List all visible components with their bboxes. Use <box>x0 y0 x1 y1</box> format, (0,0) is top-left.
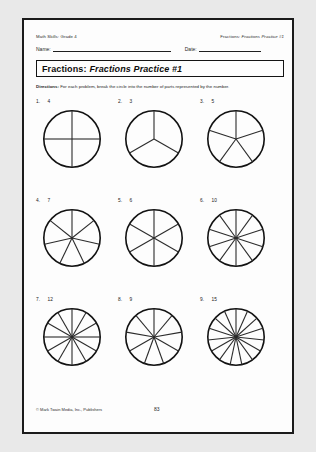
problem-parts-value: 10 <box>211 198 217 203</box>
header-lesson-title: Fractions: Fractions Practice #1 <box>220 34 284 39</box>
problem-number: 9. <box>200 297 204 302</box>
header-book-title: Math Skills: Grade 4 <box>36 34 77 39</box>
date-label: Date: <box>185 46 197 52</box>
header-lesson-prefix: Fractions: <box>220 34 240 39</box>
problem-9: 9.15 <box>200 297 282 396</box>
problem-4: 4.7 <box>36 198 118 297</box>
problem-parts-value: 9 <box>129 297 132 302</box>
problem-parts-value: 15 <box>211 297 217 302</box>
problem-row: 7.128.99.15 <box>36 297 284 396</box>
problem-parts-value: 12 <box>47 297 53 302</box>
problem-label: 6.10 <box>200 198 282 207</box>
problem-parts-value: 4 <box>47 99 50 104</box>
problem-label: 1.4 <box>36 99 118 108</box>
problem-8: 8.9 <box>118 297 200 396</box>
fraction-circle[interactable] <box>41 108 103 170</box>
fraction-circle[interactable] <box>205 306 267 368</box>
worksheet-page: Math Skills: Grade 4 Fractions: Fraction… <box>22 18 294 434</box>
problem-label: 5.6 <box>118 198 200 207</box>
fraction-circle[interactable] <box>123 306 185 368</box>
problem-parts-value: 6 <box>129 198 132 203</box>
problem-number: 4. <box>36 198 40 203</box>
problem-number: 7. <box>36 297 40 302</box>
problem-label: 9.15 <box>200 297 282 306</box>
problem-number: 5. <box>118 198 122 203</box>
problem-number: 3. <box>200 99 204 104</box>
problem-label: 3.5 <box>200 99 282 108</box>
fraction-circle[interactable] <box>205 108 267 170</box>
problem-parts-value: 7 <box>47 198 50 203</box>
fraction-circle[interactable] <box>205 207 267 269</box>
problem-label: 4.7 <box>36 198 118 207</box>
directions-label: Directions: <box>36 84 59 89</box>
problem-grid: 1.42.33.54.75.66.107.128.99.15 <box>36 99 284 396</box>
problem-5: 5.6 <box>118 198 200 297</box>
page-content: Math Skills: Grade 4 Fractions: Fraction… <box>36 34 284 424</box>
problem-number: 1. <box>36 99 40 104</box>
problem-1: 1.4 <box>36 99 118 198</box>
worksheet-title-topic: Fractions: <box>42 64 87 74</box>
page-header: Math Skills: Grade 4 Fractions: Fraction… <box>36 34 284 39</box>
fraction-circle[interactable] <box>123 207 185 269</box>
footer-copyright: © Mark Twain Media, Inc., Publishers <box>36 407 154 412</box>
fraction-circle[interactable] <box>123 108 185 170</box>
problem-3: 3.5 <box>200 99 282 198</box>
page-footer: © Mark Twain Media, Inc., Publishers 83 <box>36 406 284 412</box>
fraction-circle[interactable] <box>41 306 103 368</box>
problem-row: 4.75.66.10 <box>36 198 284 297</box>
name-label: Name: <box>36 46 51 52</box>
name-input-line[interactable] <box>53 46 171 52</box>
worksheet-title-box: Fractions: Fractions Practice #1 <box>36 60 284 77</box>
problem-row: 1.42.33.5 <box>36 99 284 198</box>
problem-label: 8.9 <box>118 297 200 306</box>
problem-parts-value: 5 <box>211 99 214 104</box>
date-input-line[interactable] <box>199 46 261 52</box>
directions-paragraph: Directions: For each problem, break the … <box>36 84 272 91</box>
problem-6: 6.10 <box>200 198 282 297</box>
fraction-circle[interactable] <box>41 207 103 269</box>
footer-page-number: 83 <box>154 406 160 412</box>
problem-2: 2.3 <box>118 99 200 198</box>
problem-number: 8. <box>118 297 122 302</box>
worksheet-title-name: Fractions Practice #1 <box>90 64 183 74</box>
problem-number: 6. <box>200 198 204 203</box>
directions-text: For each problem, break the circle into … <box>60 84 229 89</box>
name-date-row: Name: Date: <box>36 46 284 52</box>
problem-number: 2. <box>118 99 122 104</box>
problem-label: 2.3 <box>118 99 200 108</box>
problem-label: 7.12 <box>36 297 118 306</box>
problem-parts-value: 3 <box>129 99 132 104</box>
problem-7: 7.12 <box>36 297 118 396</box>
header-lesson-name: Fractions Practice #1 <box>242 34 284 39</box>
